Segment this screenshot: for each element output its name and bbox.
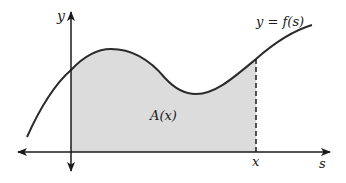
- s-axis-label: s: [319, 156, 326, 171]
- y-axis-label: y: [56, 8, 66, 24]
- shaded-area-region: [71, 49, 256, 152]
- x-marker-label: x: [252, 154, 260, 169]
- area-function-diagram: y y = f(s) A(x) x s: [0, 0, 346, 183]
- curve-label: y = f(s): [255, 14, 304, 29]
- area-label: A(x): [149, 108, 177, 123]
